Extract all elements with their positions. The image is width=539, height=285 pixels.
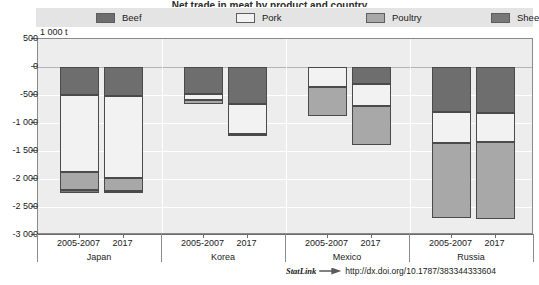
bar-segment-korea-2017-pork[interactable] [228,104,267,134]
legend-item-pork[interactable]: Pork [236,8,282,27]
legend-swatch-beef [96,13,115,23]
statlink-footer: StatLink http://dx.doi.org/10.1787/38334… [286,266,496,276]
x-tick-label-mexico-20052007: 2005-2007 [305,238,348,248]
bar-segment-korea-2017-beef[interactable] [228,67,267,104]
bar-segment-mexico-20052007-poultry[interactable] [308,87,347,116]
group-separator-Mexico [286,39,287,233]
bar-segment-korea-20052007-beef[interactable] [184,67,223,94]
bar-segment-russia-2017-beef[interactable] [476,67,515,113]
legend-item-beef[interactable]: Beef [96,8,142,27]
group-separator-Korea [162,39,163,233]
x-group-label-russia: Russia [457,252,485,262]
y-tick-label-0: 0 [0,61,38,71]
bar-segment-russia-20052007-poultry[interactable] [432,143,471,219]
plot-area [37,38,533,234]
bar-segment-japan-20052007-poultry[interactable] [60,172,99,190]
y-tick-label--1500: -1 500 [0,145,38,155]
legend-swatch-sheep [491,13,510,23]
x-tick-label-japan-20052007: 2005-2007 [57,238,100,248]
legend-label-poultry: Poultry [392,12,422,23]
legend-label-pork: Pork [262,12,282,23]
group-separator-Russia [410,39,411,233]
x-group-label-mexico: Mexico [333,252,362,262]
x-group-divider-Korea [161,234,162,262]
bar-segment-russia-20052007-beef[interactable] [432,67,471,112]
legend-swatch-pork [236,13,255,23]
legend-item-sheep[interactable]: Sheep [491,8,539,27]
legend-label-beef: Beef [122,12,142,23]
bar-segment-mexico-20052007-pork[interactable] [308,67,347,87]
statlink-url[interactable]: http://dx.doi.org/10.1787/383344333604 [345,266,496,276]
y-tick-label--3000: -3 000 [0,229,38,239]
chart-legend: BeefPorkPoultrySheep [36,8,533,27]
bar-segment-japan-2017-beef[interactable] [104,67,143,96]
y-axis-unit-label: 1 000 t [40,27,68,37]
x-tick-label-russia-2017: 2017 [484,238,504,248]
y-tick-label--500: -500 [0,89,38,99]
y-tick-label--1000: -1 000 [0,117,38,127]
bar-segment-japan-2017-sheep[interactable] [104,191,143,193]
y-tick-label-500: 500 [0,33,38,43]
bar-segment-japan-20052007-pork[interactable] [60,95,99,172]
x-group-label-japan: Japan [87,252,112,262]
x-axis-edge [533,234,534,262]
bar-segment-korea-20052007-poultry[interactable] [184,100,223,104]
legend-item-poultry[interactable]: Poultry [366,8,422,27]
x-axis-edge [37,234,38,262]
x-tick-label-mexico-2017: 2017 [360,238,380,248]
bar-segment-mexico-2017-poultry[interactable] [352,106,391,145]
chart-figure: Net trade in meat by product and country… [0,0,539,285]
legend-label-sheep: Sheep [517,12,539,23]
x-group-divider-Russia [409,234,410,262]
statlink-arrow-icon [319,268,341,275]
bar-segment-mexico-2017-beef[interactable] [352,67,391,84]
x-tick-label-japan-2017: 2017 [112,238,132,248]
bar-segment-japan-20052007-beef[interactable] [60,67,99,95]
bar-segment-russia-20052007-pork[interactable] [432,112,471,143]
x-tick-label-korea-20052007: 2005-2007 [181,238,224,248]
bar-segment-mexico-2017-pork[interactable] [352,84,391,106]
x-group-label-korea: Korea [211,252,235,262]
x-tick-label-russia-20052007: 2005-2007 [429,238,472,248]
bar-segment-korea-2017-poultry[interactable] [228,134,267,136]
bar-segment-japan-2017-pork[interactable] [104,96,143,178]
x-group-divider-Mexico [285,234,286,262]
chart-title: Net trade in meat by product and country [0,0,539,7]
y-tick-label--2000: -2 000 [0,173,38,183]
bar-segment-japan-20052007-sheep[interactable] [60,190,99,193]
statlink-label: StatLink [286,266,316,276]
bar-segment-russia-2017-pork[interactable] [476,113,515,142]
y-tick-label--2500: -2 500 [0,201,38,211]
bar-segment-japan-2017-poultry[interactable] [104,178,143,191]
x-tick-label-korea-2017: 2017 [236,238,256,248]
bar-segment-russia-2017-poultry[interactable] [476,142,515,219]
legend-swatch-poultry [366,13,385,23]
